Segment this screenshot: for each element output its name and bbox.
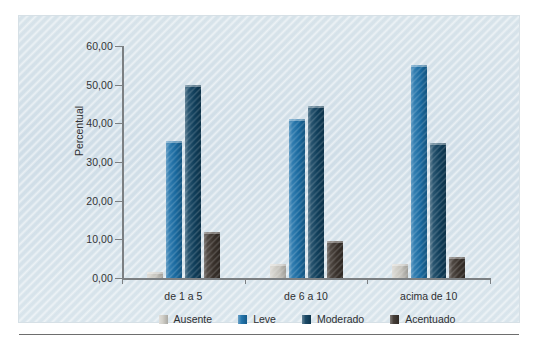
page-bottom-rule xyxy=(19,334,519,335)
bar-cap xyxy=(147,272,163,274)
x-tick-mark xyxy=(245,278,246,284)
bar xyxy=(147,272,163,278)
y-tick-mark xyxy=(115,239,122,240)
bar xyxy=(166,141,182,278)
y-tick-mark xyxy=(115,201,122,202)
legend-label: Acentuado xyxy=(405,313,455,325)
bar-shading xyxy=(411,65,427,278)
legend-swatch xyxy=(302,315,311,324)
legend-item: Moderado xyxy=(302,313,364,325)
legend-swatch xyxy=(390,315,399,324)
bar-cap xyxy=(308,106,324,108)
legend-swatch-shading xyxy=(159,315,168,324)
x-axis-line xyxy=(122,278,490,280)
bar-shading xyxy=(308,106,324,278)
bar-cap xyxy=(204,232,220,234)
bar xyxy=(430,143,446,278)
bar-cap xyxy=(185,85,201,87)
bar xyxy=(308,106,324,278)
bar-shading xyxy=(289,119,305,278)
y-tick-label: 20,00 xyxy=(86,195,113,207)
bar xyxy=(392,264,408,278)
bar xyxy=(204,232,220,278)
legend-item: Acentuado xyxy=(390,313,455,325)
legend-swatch-shading xyxy=(302,315,311,324)
y-tick-mark xyxy=(115,123,122,124)
x-tick-mark xyxy=(122,278,123,284)
legend-swatch-shading xyxy=(390,315,399,324)
y-axis-line xyxy=(122,46,124,278)
legend-swatch xyxy=(159,315,168,324)
bar xyxy=(449,257,465,278)
bar xyxy=(327,241,343,278)
bar-shading xyxy=(430,143,446,278)
legend-swatch xyxy=(238,315,247,324)
bar-shading xyxy=(327,241,343,278)
chart-figure: 0,0010,0020,0030,0040,0050,0060,00 de 1 … xyxy=(19,16,519,322)
x-tick-label: acima de 10 xyxy=(400,290,457,302)
bar-cap xyxy=(166,141,182,143)
y-tick-mark xyxy=(115,278,122,279)
legend-item: Leve xyxy=(238,313,276,325)
bar-shading xyxy=(270,264,286,278)
y-tick-label: 40,00 xyxy=(86,117,113,129)
y-tick-label: 30,00 xyxy=(86,156,113,168)
bar-cap xyxy=(430,143,446,145)
y-tick-mark xyxy=(115,46,122,47)
legend-swatch-shading xyxy=(238,315,247,324)
y-tick-mark xyxy=(115,162,122,163)
legend-label: Leve xyxy=(253,313,276,325)
bar-shading xyxy=(204,232,220,278)
y-tick-mark xyxy=(115,85,122,86)
legend-label: Moderado xyxy=(317,313,364,325)
y-axis-title: Percentual xyxy=(73,106,85,156)
bar-shading xyxy=(166,141,182,278)
bar xyxy=(185,85,201,278)
x-tick-label: de 1 a 5 xyxy=(164,290,202,302)
bar-cap xyxy=(449,257,465,259)
bar-cap xyxy=(327,241,343,243)
y-tick-label: 60,00 xyxy=(86,40,113,52)
y-tick-label: 50,00 xyxy=(86,79,113,91)
bar xyxy=(270,264,286,278)
bar xyxy=(289,119,305,278)
plot-area: 0,0010,0020,0030,0040,0050,0060,00 de 1 … xyxy=(122,46,492,278)
bar-shading xyxy=(392,264,408,278)
legend-item: Ausente xyxy=(159,313,213,325)
x-tick-label: de 6 a 10 xyxy=(284,290,328,302)
x-tick-mark xyxy=(367,278,368,284)
bar xyxy=(411,65,427,278)
chart-legend: AusenteLeveModeradoAcentuado xyxy=(122,313,492,325)
y-tick-label: 0,00 xyxy=(92,272,113,284)
x-tick-mark xyxy=(490,278,491,284)
bar-shading xyxy=(449,257,465,278)
legend-label: Ausente xyxy=(174,313,213,325)
y-tick-label: 10,00 xyxy=(86,233,113,245)
bar-shading xyxy=(185,85,201,278)
